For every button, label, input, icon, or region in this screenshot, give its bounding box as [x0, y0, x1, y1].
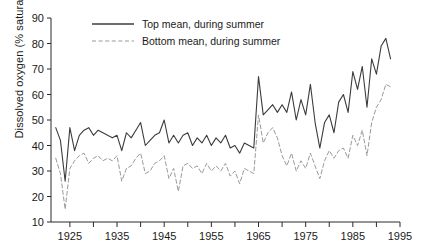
chart-plot-area: 102030405060708090 192519351945195519651…: [0, 0, 422, 251]
x-tick-label: 1955: [199, 230, 223, 242]
y-tick-label: 50: [32, 114, 44, 126]
y-tick-label: 40: [32, 140, 44, 152]
series-line-top-mean: [56, 38, 391, 181]
y-axis-ticks: 102030405060708090: [32, 12, 51, 228]
chart-figure: Dissolved oxygen (% saturation) 10203040…: [0, 0, 422, 251]
x-tick-label: 1925: [58, 230, 82, 242]
x-tick-label: 1985: [341, 230, 365, 242]
y-tick-label: 70: [32, 63, 44, 75]
y-tick-label: 20: [32, 191, 44, 203]
y-tick-label: 10: [32, 216, 44, 228]
chart-legend: Top mean, during summerBottom mean, duri…: [92, 18, 281, 47]
x-tick-label: 1965: [246, 230, 270, 242]
series-line-bottom-mean: [56, 84, 391, 209]
x-axis-ticks: 19251935194519551965197519851995: [58, 222, 413, 242]
series-lines: [56, 38, 391, 209]
y-tick-label: 80: [32, 38, 44, 50]
legend-label-top-mean: Top mean, during summer: [142, 18, 264, 30]
y-tick-label: 30: [32, 165, 44, 177]
x-tick-label: 1995: [388, 230, 412, 242]
legend-label-bottom-mean: Bottom mean, during summer: [142, 35, 281, 47]
y-tick-label: 90: [32, 12, 44, 24]
x-tick-label: 1945: [152, 230, 176, 242]
x-tick-label: 1935: [105, 230, 129, 242]
x-tick-label: 1975: [293, 230, 317, 242]
y-tick-label: 60: [32, 89, 44, 101]
